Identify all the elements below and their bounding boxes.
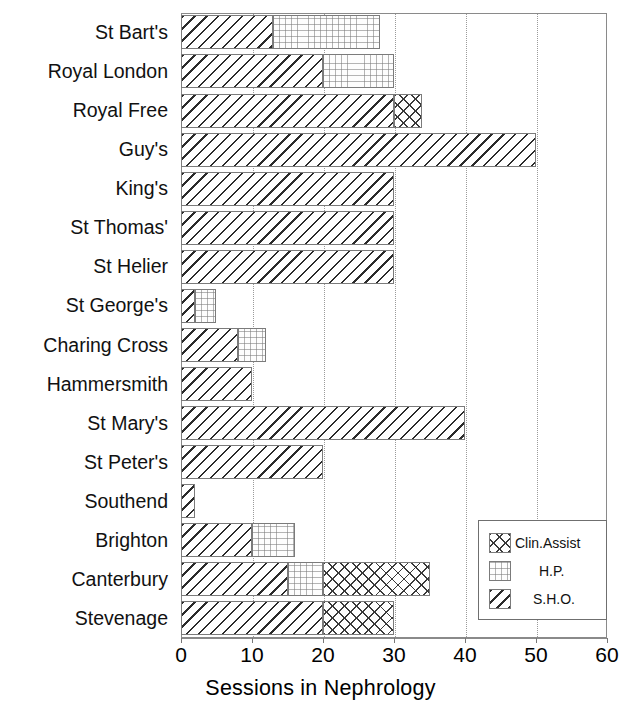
bar-segment-s-h-o (181, 406, 465, 440)
bar-segment-clin-assist (323, 601, 394, 635)
legend-swatch-diagonal-hatch (489, 589, 511, 609)
x-tick-label: 0 (175, 643, 187, 667)
y-axis-label: St Thomas' (70, 208, 168, 247)
legend-item: S.H.O. (489, 586, 575, 612)
bar-row (181, 208, 607, 247)
bar-segment-h-p (323, 54, 394, 88)
bar-segment-s-h-o (181, 211, 394, 245)
bar-segment-s-h-o (181, 328, 238, 362)
legend-item: H.P. (489, 558, 564, 584)
nephrology-sessions-bar-chart: St Bart'sRoyal LondonRoyal FreeGuy'sKing… (0, 0, 641, 713)
y-axis-label: St Mary's (87, 404, 168, 443)
bar-segment-s-h-o (181, 250, 394, 284)
x-tick-label: 20 (311, 643, 334, 667)
y-axis-label: Hammersmith (47, 365, 168, 404)
bar-segment-h-p (195, 289, 216, 323)
x-tick-label: 30 (382, 643, 405, 667)
bar-segment-s-h-o (181, 562, 288, 596)
bar-row (181, 286, 607, 325)
y-axis-label: Canterbury (72, 560, 168, 599)
legend-box: Clin.AssistH.P.S.H.O. (478, 520, 607, 620)
bar-row (181, 13, 607, 52)
bar-segment-h-p (288, 562, 324, 596)
x-axis-title: Sessions in Nephrology (0, 676, 641, 701)
bar-row (181, 326, 607, 365)
bar-segment-s-h-o (181, 15, 273, 49)
bar-segment-s-h-o (181, 367, 252, 401)
y-axis-label: King's (115, 169, 168, 208)
bar-segment-s-h-o (181, 94, 394, 128)
bar-segment-s-h-o (181, 601, 323, 635)
bar-segment-h-p (238, 328, 266, 362)
bar-row (181, 482, 607, 521)
bar-row (181, 52, 607, 91)
bar-row (181, 247, 607, 286)
bar-segment-s-h-o (181, 484, 195, 518)
y-axis-label: Brighton (95, 521, 168, 560)
y-axis-category-labels: St Bart'sRoyal LondonRoyal FreeGuy'sKing… (0, 13, 175, 638)
y-axis-label: Guy's (119, 130, 168, 169)
y-axis-label: St Bart's (95, 13, 168, 52)
legend-swatch-cross-hatch (489, 533, 511, 553)
bar-segment-s-h-o (181, 445, 323, 479)
legend-label: H.P. (539, 563, 564, 579)
bar-segment-h-p (273, 15, 380, 49)
legend-swatch-dotted (489, 561, 511, 581)
x-tick-label: 10 (240, 643, 263, 667)
bar-segment-s-h-o (181, 54, 323, 88)
y-axis-label: St Peter's (84, 443, 168, 482)
y-axis-label: Charing Cross (43, 326, 168, 365)
legend-label: S.H.O. (533, 591, 575, 607)
bar-row (181, 404, 607, 443)
x-tick-label: 50 (524, 643, 547, 667)
bar-segment-clin-assist (323, 562, 430, 596)
x-tick-label: 40 (453, 643, 476, 667)
bar-row (181, 443, 607, 482)
bar-segment-s-h-o (181, 133, 536, 167)
y-axis-label: Southend (85, 482, 169, 521)
y-axis-label: Royal Free (73, 91, 168, 130)
y-axis-label: Royal London (48, 52, 168, 91)
bar-row (181, 169, 607, 208)
y-axis-label: St Helier (93, 247, 168, 286)
bar-segment-s-h-o (181, 289, 195, 323)
legend-item: Clin.Assist (489, 530, 580, 556)
y-axis-label: St George's (66, 286, 168, 325)
bar-row (181, 130, 607, 169)
legend-label: Clin.Assist (515, 535, 580, 551)
bar-row (181, 91, 607, 130)
bar-row (181, 365, 607, 404)
bar-segment-s-h-o (181, 172, 394, 206)
bar-segment-h-p (252, 523, 295, 557)
x-tick-label: 60 (595, 643, 618, 667)
y-axis-label: Stevenage (75, 599, 168, 638)
bar-segment-s-h-o (181, 523, 252, 557)
bar-segment-clin-assist (394, 94, 422, 128)
